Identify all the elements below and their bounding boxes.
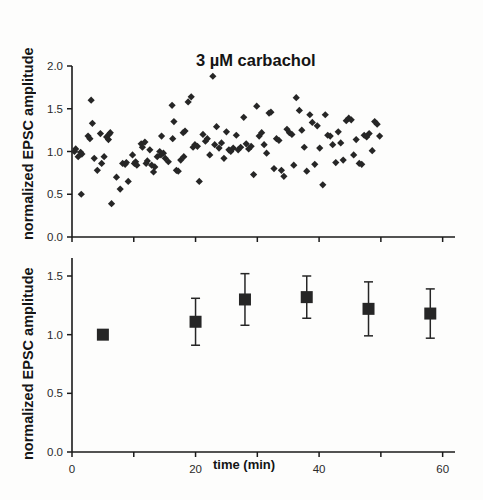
- bottom-data-markers: [97, 274, 436, 346]
- x-tick-label: 0: [69, 463, 75, 475]
- bottom-axes: [67, 258, 455, 457]
- errorbar-point: [424, 289, 436, 338]
- scatter-point: [350, 151, 357, 158]
- scatter-point: [213, 123, 220, 130]
- top-plot-svg: 0.00.51.01.52.0: [0, 0, 483, 248]
- scatter-point: [169, 135, 176, 142]
- scatter-point: [311, 161, 318, 168]
- scatter-point: [353, 136, 360, 143]
- scatter-point: [209, 73, 216, 80]
- scatter-point: [329, 141, 336, 148]
- scatter-point: [94, 167, 101, 174]
- scatter-point: [168, 102, 175, 109]
- figure-canvas: normalized EPSC amplitude 3 µM carbachol…: [0, 0, 483, 500]
- top-tick-labels: 0.00.51.01.52.0: [47, 60, 63, 243]
- top-axes: [67, 66, 455, 242]
- top-data-markers: [71, 73, 383, 208]
- scatter-point: [223, 128, 230, 135]
- scatter-point: [88, 97, 95, 104]
- scatter-point: [332, 159, 339, 166]
- scatter-point: [263, 150, 270, 157]
- scatter-point: [158, 133, 165, 140]
- scatter-point: [298, 127, 305, 134]
- scatter-point: [293, 94, 300, 101]
- errorbar-point: [97, 329, 109, 341]
- scatter-point: [337, 139, 344, 146]
- scatter-point: [89, 120, 96, 127]
- scatter-point: [306, 111, 313, 118]
- scatter-point: [129, 151, 136, 158]
- scatter-point: [253, 103, 260, 110]
- scatter-point: [376, 133, 383, 140]
- scatter-point: [316, 144, 323, 151]
- scatter-point: [319, 181, 326, 188]
- scatter-point: [146, 146, 153, 153]
- y-tick-label: 1.0: [47, 329, 63, 341]
- errorbar-point: [239, 274, 251, 326]
- scatter-point: [220, 155, 227, 162]
- scatter-point: [340, 156, 347, 163]
- scatter-point: [196, 178, 203, 185]
- scatter-point: [233, 132, 240, 139]
- scatter-point: [303, 168, 310, 175]
- errorbar-point: [363, 282, 375, 336]
- scatter-point: [206, 151, 213, 158]
- scatter-point: [108, 200, 115, 207]
- scatter-point: [322, 111, 329, 118]
- scatter-point: [98, 160, 105, 167]
- scatter-point: [150, 168, 157, 175]
- scatter-point: [335, 128, 342, 135]
- scatter-point: [125, 178, 132, 185]
- bottom-tick-labels: 0.00.51.01.5: [47, 270, 63, 458]
- errorbar-point: [190, 298, 202, 345]
- scatter-point: [261, 141, 268, 148]
- scatter-point: [117, 186, 124, 193]
- x-tick-label: 60: [436, 463, 449, 475]
- scatter-point: [113, 174, 120, 181]
- y-tick-label: 2.0: [47, 60, 63, 72]
- y-tick-label: 1.5: [47, 270, 63, 282]
- scatter-point: [296, 107, 303, 114]
- scatter-point: [101, 153, 108, 160]
- scatter-point: [78, 191, 85, 198]
- x-axis-label: time (min): [213, 457, 275, 472]
- y-tick-label: 0.5: [47, 387, 63, 399]
- scatter-point: [91, 155, 98, 162]
- scatter-point: [97, 130, 104, 137]
- x-tick-label: 20: [189, 463, 202, 475]
- scatter-point: [240, 114, 247, 121]
- scatter-point: [170, 118, 177, 125]
- errorbar-point: [301, 276, 313, 318]
- scatter-point: [290, 162, 297, 169]
- y-tick-label: 0.5: [47, 188, 63, 200]
- scatter-panel-top: normalized EPSC amplitude 3 µM carbachol…: [0, 0, 483, 248]
- scatter-point: [250, 171, 257, 178]
- scatter-point: [369, 147, 376, 154]
- scatter-point: [270, 165, 277, 172]
- y-tick-label: 1.0: [47, 146, 63, 158]
- scatter-point: [301, 144, 308, 151]
- x-tick-label: 40: [313, 463, 326, 475]
- y-tick-label: 0.0: [47, 446, 63, 458]
- y-tick-label: 1.5: [47, 103, 63, 115]
- y-tick-label: 0.0: [47, 231, 63, 243]
